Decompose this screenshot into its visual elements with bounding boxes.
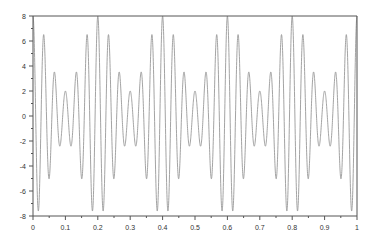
x-tick-label: 0.6 <box>223 224 233 231</box>
x-tick-label: 0.5 <box>190 224 200 231</box>
x-tick-label: 0.4 <box>158 224 168 231</box>
x-tick-label: 0.2 <box>93 224 103 231</box>
y-tick-label: -6 <box>20 188 26 195</box>
y-tick-label: -8 <box>20 213 26 220</box>
y-tick-label: 8 <box>22 13 26 20</box>
x-tick-label: 0.7 <box>255 224 265 231</box>
x-tick-label: 0.9 <box>320 224 330 231</box>
y-axis-ticks: 86420-2-4-6-8 <box>20 13 33 220</box>
axes-frame <box>33 16 357 216</box>
y-tick-label: -4 <box>20 163 26 170</box>
x-tick-label: 0 <box>31 224 35 231</box>
y-tick-label: 0 <box>22 113 26 120</box>
plot-area <box>33 16 357 211</box>
y-tick-label: 4 <box>22 63 26 70</box>
y-tick-label: -2 <box>20 138 26 145</box>
signal-line <box>33 16 357 211</box>
x-tick-label: 1 <box>355 224 359 231</box>
y-tick-label: 2 <box>22 88 26 95</box>
y-tick-label: 6 <box>22 38 26 45</box>
x-axis-ticks: 00.10.20.30.40.50.60.70.80.91 <box>31 216 359 231</box>
x-tick-label: 0.1 <box>61 224 71 231</box>
x-tick-label: 0.3 <box>125 224 135 231</box>
line-chart: 00.10.20.30.40.50.60.70.80.91 86420-2-4-… <box>0 0 378 244</box>
x-tick-label: 0.8 <box>287 224 297 231</box>
